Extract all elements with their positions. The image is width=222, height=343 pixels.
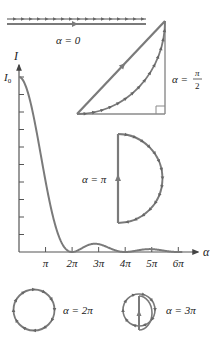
tiny-arrow-icons [83, 28, 166, 115]
phasor-semicircle [118, 134, 163, 223]
y-max-label: I0 [3, 71, 12, 85]
tiny-arrow-icon [85, 17, 89, 21]
right-angle-mark [156, 106, 165, 114]
tiny-arrow-icon [117, 17, 121, 21]
tiny-arrow-icon [69, 17, 73, 21]
label-alpha-0: α = 0 [56, 34, 81, 46]
tiny-arrow-icon [29, 17, 33, 21]
x-tick-label: 5π [146, 257, 158, 269]
x-tick-label: 6π [173, 257, 185, 269]
phasor-alpha-2pi: α = 2π [12, 288, 93, 333]
intensity-curve [19, 77, 182, 252]
tiny-arrow-icon [121, 308, 125, 312]
tiny-arrow-icon [163, 28, 167, 32]
phasor-alpha-half-pi: α = π 2 [77, 21, 202, 116]
tiny-arrow-icon [109, 17, 113, 21]
phasor-alpha-3pi: α = 3π [121, 292, 196, 330]
tiny-arrow-icon [53, 308, 57, 312]
tiny-arrow-icon [61, 17, 65, 21]
y-max-sub: 0 [8, 77, 12, 85]
y-axis-label: I [13, 49, 19, 63]
tiny-arrow-icon [45, 17, 49, 21]
tiny-arrow-icon [153, 308, 157, 312]
x-axis-label: α [203, 245, 210, 259]
tiny-arrow-icon [93, 17, 97, 21]
tiny-arrow-icon [141, 17, 145, 21]
resultant-arrow-icon [115, 174, 121, 181]
tiny-arrow-icon [125, 17, 129, 21]
y-axis-ticks [19, 77, 24, 235]
tiny-arrow-icons [12, 288, 57, 333]
label-alpha-half-pi: α = [172, 73, 188, 85]
tiny-arrow-icon [13, 17, 17, 21]
label-two-denominator: 2 [195, 81, 200, 91]
tiny-arrow-icon [32, 329, 36, 333]
tiny-arrow-icon [37, 17, 41, 21]
label-alpha-3pi: α = 3π [166, 304, 196, 316]
phasor-alpha-pi: α = π [82, 133, 164, 225]
x-tick-label: 2π [67, 257, 79, 269]
tiny-arrow-icon [133, 17, 137, 21]
tiny-arrow-icon [21, 17, 25, 21]
resultant-arrow-icon [137, 310, 142, 316]
label-alpha-pi: α = π [82, 173, 107, 185]
x-tick-label: 4π [120, 257, 132, 269]
phasor-diagram-figure: α = 0 α = π 2 α = π π2π3π4π5π6π I I0 α [0, 0, 222, 343]
tiny-arrow-icon [161, 177, 165, 181]
x-tick-label: 3π [92, 257, 105, 269]
tiny-arrow-icon [77, 17, 81, 21]
phasor-alpha-0: α = 0 [7, 17, 146, 46]
tiny-arrow-icon [32, 288, 36, 292]
tiny-arrow-icon [101, 17, 105, 21]
resultant-arrow-icon [72, 21, 78, 27]
tiny-arrow-icons [124, 133, 164, 225]
tiny-arrow-icon [53, 17, 57, 21]
x-tick-label: π [43, 257, 49, 269]
label-alpha-2pi: α = 2π [63, 304, 93, 316]
label-pi-numerator: π [195, 68, 200, 78]
phasor-circle [14, 290, 55, 331]
tiny-arrow-icon [12, 308, 16, 312]
tiny-arrow-icon [83, 112, 87, 116]
